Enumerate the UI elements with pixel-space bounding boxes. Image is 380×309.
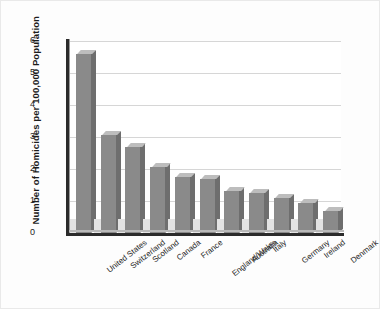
y-tick-label: 2	[7, 163, 35, 173]
y-tick-label: 1	[7, 195, 35, 205]
bar-top-face	[201, 175, 220, 179]
bar[interactable]	[274, 198, 289, 233]
y-axis-highlight	[69, 39, 70, 235]
y-tick-label: 6	[7, 35, 35, 45]
bar-front-face	[150, 167, 165, 233]
bar-front-face	[274, 198, 289, 233]
x-axis-highlight	[69, 230, 344, 232]
x-axis-line	[66, 233, 344, 236]
chart-frame: Number of Homicides per 100,000 Populati…	[0, 0, 380, 309]
bar[interactable]	[298, 203, 313, 233]
bar-top-face	[127, 143, 146, 147]
x-tick-label: France	[199, 238, 224, 260]
gridline	[69, 41, 341, 42]
bar-top-face	[325, 207, 344, 211]
bar[interactable]	[76, 54, 91, 233]
x-tick-label: Canada	[175, 238, 203, 262]
y-tick-label: 0	[7, 227, 35, 237]
gridline	[69, 73, 341, 74]
bar-front-face	[200, 179, 215, 233]
gridline	[69, 105, 341, 106]
bar-side-face	[116, 131, 121, 233]
y-tick-label: 4	[7, 99, 35, 109]
x-tick-label: Denmark	[349, 238, 380, 265]
y-tick-label: 3	[7, 131, 35, 141]
bar[interactable]	[101, 135, 116, 233]
bar-front-face	[298, 203, 313, 233]
bar-front-face	[249, 193, 264, 233]
bar[interactable]	[200, 179, 215, 233]
y-tick-label: 5	[7, 67, 35, 77]
bar[interactable]	[249, 193, 264, 233]
bar-side-face	[91, 50, 96, 233]
bar[interactable]	[150, 167, 165, 233]
bar[interactable]	[224, 191, 239, 233]
bar[interactable]	[125, 147, 140, 233]
bar-top-face	[300, 199, 319, 203]
bar-front-face	[175, 177, 190, 233]
bar-front-face	[76, 54, 91, 233]
bar-front-face	[101, 135, 116, 233]
bar-front-face	[125, 147, 140, 233]
bar-front-face	[224, 191, 239, 233]
bar[interactable]	[175, 177, 190, 233]
plot-area	[69, 41, 341, 233]
